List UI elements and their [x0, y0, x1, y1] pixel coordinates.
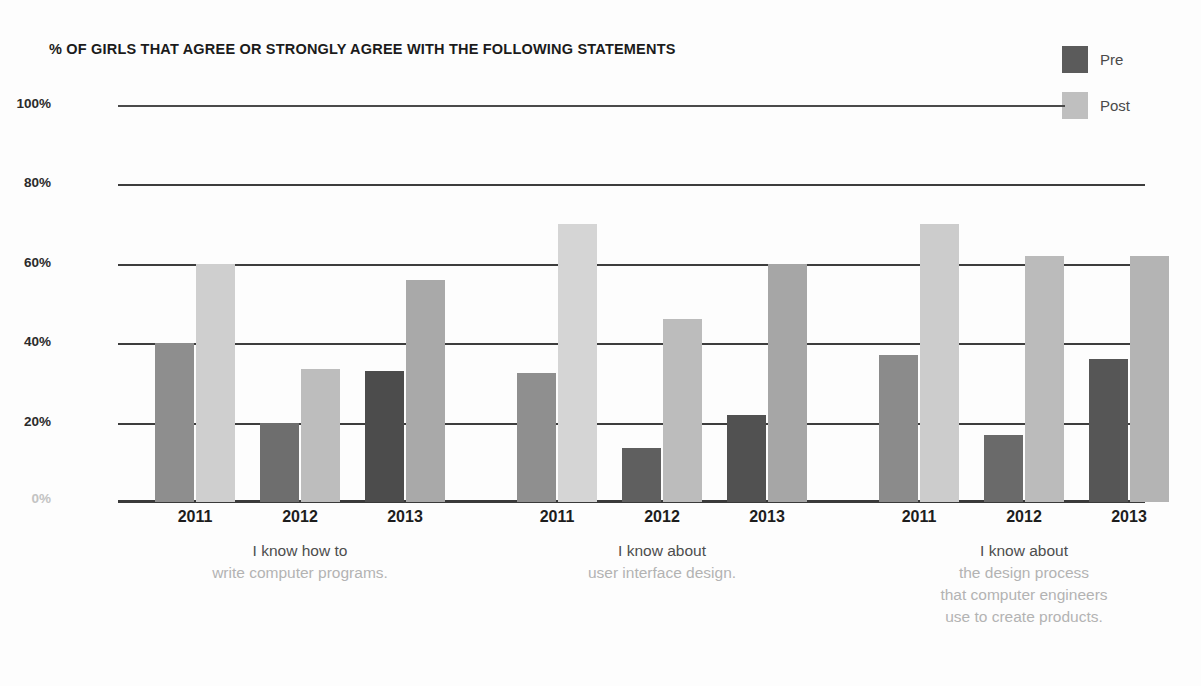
chart-page: % OF GIRLS THAT AGREE OR STRONGLY AGREE …: [0, 0, 1201, 686]
x-axis-label-2012: 2012: [255, 508, 345, 526]
bar-pre-2013: [727, 415, 766, 502]
x-axis-label-2011: 2011: [512, 508, 602, 526]
x-axis-label-2011: 2011: [874, 508, 964, 526]
bar-pre-2013: [1089, 359, 1128, 502]
caption-line-1: write computer programs.: [135, 562, 465, 584]
bars-layer: [118, 105, 1145, 502]
bar-post-2013: [406, 280, 445, 502]
bar-pre-2012: [984, 435, 1023, 502]
x-axis-labels: 201120122013201120122013201120122013: [118, 508, 1145, 538]
caption-lead: I know how to: [135, 540, 465, 562]
group-caption-3: I know aboutthe design processthat compu…: [859, 540, 1189, 628]
bar-post-2011: [558, 224, 597, 502]
x-axis-label-2013: 2013: [1084, 508, 1174, 526]
bar-post-2012: [1025, 256, 1064, 502]
bar-pre-2011: [155, 343, 194, 502]
legend-swatch-pre-icon: [1062, 46, 1088, 73]
chart-title: % OF GIRLS THAT AGREE OR STRONGLY AGREE …: [49, 41, 676, 57]
x-axis-label-2013: 2013: [360, 508, 450, 526]
y-axis-tick-80: 80%: [0, 175, 51, 190]
bar-post-2013: [1130, 256, 1169, 502]
bar-pre-2012: [622, 448, 661, 502]
caption-lead: I know about: [859, 540, 1189, 562]
x-axis-label-2012: 2012: [979, 508, 1069, 526]
caption-line-1: the design process: [859, 562, 1189, 584]
bar-post-2012: [301, 369, 340, 502]
legend-item-pre[interactable]: Pre: [1062, 44, 1192, 74]
x-axis-label-2012: 2012: [617, 508, 707, 526]
bar-post-2013: [768, 264, 807, 502]
group-caption-1: I know how towrite computer programs.: [135, 540, 465, 584]
bar-post-2012: [663, 319, 702, 502]
bar-post-2011: [196, 264, 235, 502]
legend-label-pre: Pre: [1100, 52, 1123, 67]
bar-pre-2012: [260, 423, 299, 502]
y-axis-tick-100: 100%: [0, 96, 51, 111]
plot-area: 100% 80% 60% 40% 20% 0%: [118, 105, 1145, 502]
y-axis-tick-0: 0%: [0, 491, 51, 506]
x-axis-label-2013: 2013: [722, 508, 812, 526]
caption-line-3: use to create products.: [859, 606, 1189, 628]
caption-line-1: user interface design.: [497, 562, 827, 584]
y-axis-tick-20: 20%: [0, 414, 51, 429]
bar-pre-2011: [879, 355, 918, 502]
bar-post-2011: [920, 224, 959, 502]
group-caption-2: I know aboutuser interface design.: [497, 540, 827, 584]
caption-line-2: that computer engineers: [859, 584, 1189, 606]
y-axis-tick-60: 60%: [0, 255, 51, 270]
bar-pre-2011: [517, 373, 556, 502]
caption-lead: I know about: [497, 540, 827, 562]
bar-pre-2013: [365, 371, 404, 502]
y-axis-tick-40: 40%: [0, 334, 51, 349]
x-axis-label-2011: 2011: [150, 508, 240, 526]
